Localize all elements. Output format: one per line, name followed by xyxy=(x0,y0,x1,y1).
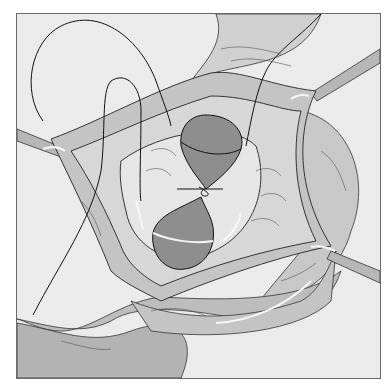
illustration-frame xyxy=(16,13,381,379)
surgical-illustration xyxy=(17,14,380,378)
